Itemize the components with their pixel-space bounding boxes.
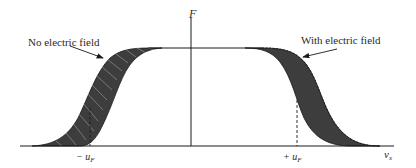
svg-text:+ uF: + uF — [283, 151, 302, 164]
x-axis-label: vx — [384, 148, 393, 162]
left-shaded-band — [32, 48, 162, 146]
y-axis-label: F — [188, 7, 197, 21]
svg-text:− uF: − uF — [76, 151, 95, 164]
svg-text:vx: vx — [384, 148, 393, 162]
right-annotation-label: With electric field — [301, 34, 381, 46]
neg-fermi-label: − uF — [76, 151, 95, 164]
pos-fermi-label: + uF — [283, 151, 302, 164]
left-annotation-label: No electric field — [28, 36, 100, 48]
right-annotation-arrow — [303, 49, 337, 57]
right-shaded-band — [245, 48, 380, 146]
diagram-canvas: F No electric field With electric field … — [0, 0, 416, 168]
